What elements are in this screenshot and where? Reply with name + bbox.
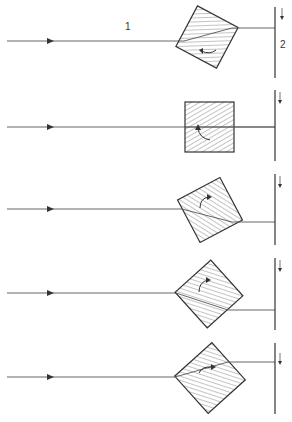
scan-direction-arrow-icon — [278, 268, 282, 272]
ray-direction-arrow-icon — [47, 374, 54, 380]
ray-direction-arrow-icon — [47, 290, 54, 296]
scan-direction-arrow-icon — [278, 184, 282, 188]
prism-deflection-diagram: 1 2 — [0, 0, 292, 422]
panel-3 — [7, 174, 282, 245]
panel-5 — [7, 343, 282, 414]
prism — [176, 6, 238, 68]
panel-2 — [7, 90, 282, 161]
ray-direction-arrow-icon — [47, 38, 54, 44]
panel-1: 1 2 — [7, 6, 286, 78]
ray-direction-arrow-icon — [47, 206, 54, 212]
prism — [175, 260, 243, 328]
ray-label: 1 — [125, 21, 131, 32]
scan-direction-arrow-icon — [278, 100, 282, 104]
panel-4 — [7, 258, 282, 330]
screen-label: 2 — [280, 39, 286, 50]
scan-direction-arrow-icon — [280, 16, 284, 20]
prism — [175, 343, 246, 414]
scan-direction-arrow-icon — [278, 361, 282, 365]
ray-direction-arrow-icon — [47, 124, 54, 130]
